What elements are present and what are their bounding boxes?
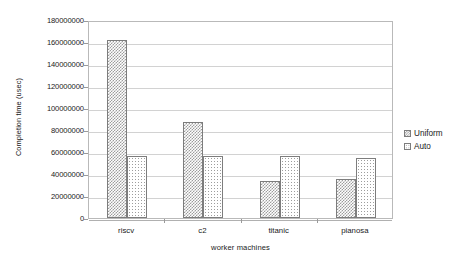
y-axis-tick-label: 0: [22, 215, 84, 223]
bar-chart: Completion time (usec) 02000000040000000…: [0, 0, 467, 268]
bar: [260, 181, 280, 218]
y-axis-tick-labels: 0200000004000000060000000800000001000000…: [22, 0, 84, 268]
plot-area: [88, 21, 393, 219]
y-axis-tick-label: 140000000: [22, 61, 84, 69]
bar: [280, 156, 300, 218]
y-axis-tick-label: 100000000: [22, 105, 84, 113]
bar: [107, 40, 127, 218]
bars-layer: [89, 22, 392, 218]
x-axis-title: worker machines: [88, 243, 393, 253]
bar-group: [107, 22, 147, 218]
y-axis-tick-label: 20000000: [22, 193, 84, 201]
x-axis-tick-mark: [317, 219, 318, 223]
legend-item: Auto: [404, 140, 464, 152]
bar: [127, 156, 147, 218]
bar-group: [336, 22, 376, 218]
y-axis-tick-label: 60000000: [22, 149, 84, 157]
bar: [336, 179, 356, 218]
legend-swatch-icon: [404, 143, 411, 150]
y-axis-tick-label: 40000000: [22, 171, 84, 179]
x-axis-tick-labels: riscvc2titanicpianosa: [88, 226, 393, 240]
x-axis-tick-label: riscv: [86, 226, 166, 236]
y-axis-tick-label: 180000000: [22, 17, 84, 25]
bar-group: [260, 22, 300, 218]
bar-group: [183, 22, 223, 218]
y-axis-tick-label: 160000000: [22, 39, 84, 47]
y-axis-tick-label: 80000000: [22, 127, 84, 135]
legend-label: Uniform: [414, 129, 443, 138]
y-axis-tick-label: 120000000: [22, 83, 84, 91]
x-axis-tick-label: c2: [162, 226, 242, 236]
x-axis-tick-mark: [241, 219, 242, 223]
bar: [203, 156, 223, 218]
bar: [183, 122, 203, 218]
bar: [356, 158, 376, 219]
x-axis-tick-mark: [164, 219, 165, 223]
x-axis-tick-label: pianosa: [315, 226, 395, 236]
legend-swatch-icon: [404, 130, 411, 137]
legend-label: Auto: [414, 142, 431, 151]
x-axis-tick-label: titanic: [239, 226, 319, 236]
legend-item: Uniform: [404, 127, 464, 139]
y-axis-tick-mark: [84, 219, 88, 220]
legend: UniformAuto: [404, 127, 464, 153]
